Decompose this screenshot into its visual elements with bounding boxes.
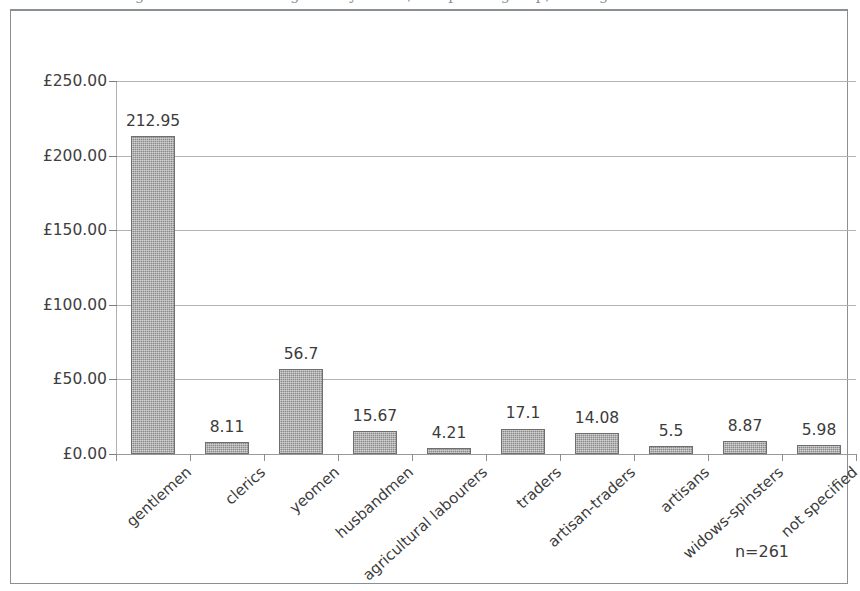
bar-value-label: 15.67: [353, 407, 397, 425]
bar: [649, 446, 693, 454]
x-axis-tick: [560, 454, 561, 461]
figure-caption: Figure: mean value of goods by status/oc…: [120, 0, 656, 3]
chart-frame: £0.00£50.00£100.00£150.00£200.00£250.00 …: [10, 9, 848, 584]
x-axis-tick: [856, 454, 857, 461]
bar-value-label: 8.11: [210, 418, 245, 436]
x-axis-tick: [264, 454, 265, 461]
sample-size-annotation: n=261: [735, 542, 789, 561]
bar-value-label: 8.87: [728, 417, 763, 435]
y-axis-tick-label: £100.00: [15, 296, 107, 314]
x-axis-tick: [190, 454, 191, 461]
gridline: [116, 156, 856, 157]
y-axis-tick-label: £250.00: [15, 72, 107, 90]
gridline: [116, 230, 856, 231]
figure-caption-strip: Figure: mean value of goods by status/oc…: [0, 0, 860, 9]
bar: [279, 369, 323, 454]
y-axis-tick: [109, 230, 117, 231]
bar-value-label: 5.98: [802, 421, 837, 439]
gridline: [116, 81, 856, 82]
gridline: [116, 379, 856, 380]
y-axis-tick-label: £50.00: [15, 370, 107, 388]
x-axis-tick: [782, 454, 783, 461]
bar-value-label: 56.7: [284, 345, 319, 363]
x-axis-tick: [486, 454, 487, 461]
y-axis-tick-label: £200.00: [15, 147, 107, 165]
x-axis-tick: [708, 454, 709, 461]
bar-value-label: 4.21: [432, 424, 467, 442]
bar-value-label: 212.95: [126, 112, 180, 130]
x-axis-tick: [412, 454, 413, 461]
y-axis-tick: [109, 81, 117, 82]
x-axis-tick: [338, 454, 339, 461]
bar: [501, 429, 545, 455]
bar: [797, 445, 841, 454]
y-axis-tick: [109, 156, 117, 157]
bar-value-label: 14.08: [575, 409, 619, 427]
y-axis-label-group: £0.00£50.00£100.00£150.00£200.00£250.00: [11, 11, 107, 591]
bar: [353, 431, 397, 454]
bar-value-label: 5.5: [659, 422, 684, 440]
y-axis-tick-label: £150.00: [15, 221, 107, 239]
y-axis-tick: [109, 379, 117, 380]
bar: [575, 433, 619, 454]
bar: [131, 136, 175, 454]
bar-value-label: 17.1: [506, 404, 541, 422]
x-axis-tick: [116, 454, 117, 461]
y-axis-tick-label: £0.00: [15, 445, 107, 463]
bar: [723, 441, 767, 454]
plot-area: [116, 81, 856, 454]
bar: [205, 442, 249, 454]
gridline: [116, 305, 856, 306]
y-axis-tick: [109, 305, 117, 306]
x-axis-tick: [634, 454, 635, 461]
